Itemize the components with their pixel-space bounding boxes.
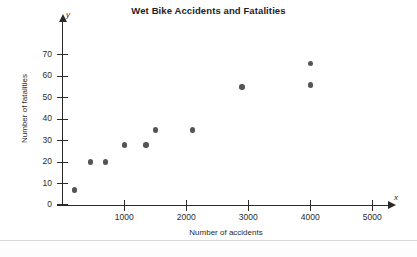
y-tick-30: [57, 140, 68, 141]
y-tick-40: [57, 119, 68, 120]
y-tick-20: [57, 162, 68, 163]
data-point: [308, 82, 313, 87]
x-tick-label-3000: 3000: [224, 212, 272, 222]
y-tick-50: [57, 97, 68, 98]
y-tick-label-20: 20: [18, 156, 52, 166]
chart-frame: Wet Bike Accidents and Fatalities y x Nu…: [0, 0, 417, 241]
y-tick-label-70: 70: [18, 49, 52, 59]
x-axis-title: Number of accidents: [126, 228, 326, 237]
x-tick-3000: [248, 200, 249, 211]
y-axis-title: Number of fatalities: [20, 49, 29, 169]
y-tick-label-0: 0: [18, 199, 52, 209]
x-axis-symbol: x: [394, 193, 398, 202]
data-point: [143, 142, 148, 147]
y-tick-0: [57, 204, 68, 205]
data-point: [72, 187, 77, 192]
x-tick-2000: [186, 200, 187, 211]
data-point: [88, 159, 93, 164]
scatter-plot-area: y x Number of fatalities Number of accid…: [0, 0, 417, 240]
chart-screenshot: Wet Bike Accidents and Fatalities y x Nu…: [0, 0, 417, 257]
y-tick-label-60: 60: [18, 70, 52, 80]
y-tick-60: [57, 76, 68, 77]
data-point: [239, 84, 244, 89]
x-axis-line: [62, 205, 390, 206]
x-tick-1000: [124, 200, 125, 211]
y-tick-label-50: 50: [18, 92, 52, 102]
x-tick-label-2000: 2000: [162, 212, 210, 222]
data-point: [103, 159, 108, 164]
data-point: [190, 127, 195, 132]
y-tick-70: [57, 54, 68, 55]
x-tick-label-4000: 4000: [286, 212, 334, 222]
x-tick-label-1000: 1000: [100, 212, 148, 222]
x-tick-5000: [372, 200, 373, 211]
x-tick-4000: [310, 200, 311, 211]
y-axis-line: [62, 22, 63, 206]
y-tick-label-40: 40: [18, 113, 52, 123]
x-tick-label-5000: 5000: [348, 212, 396, 222]
y-tick-label-10: 10: [18, 178, 52, 188]
y-axis-symbol: y: [66, 10, 70, 19]
data-point: [153, 127, 158, 132]
y-tick-10: [57, 183, 68, 184]
x-axis-arrow-icon: [388, 201, 396, 209]
y-tick-label-30: 30: [18, 135, 52, 145]
data-point: [122, 142, 127, 147]
data-point: [308, 61, 313, 66]
